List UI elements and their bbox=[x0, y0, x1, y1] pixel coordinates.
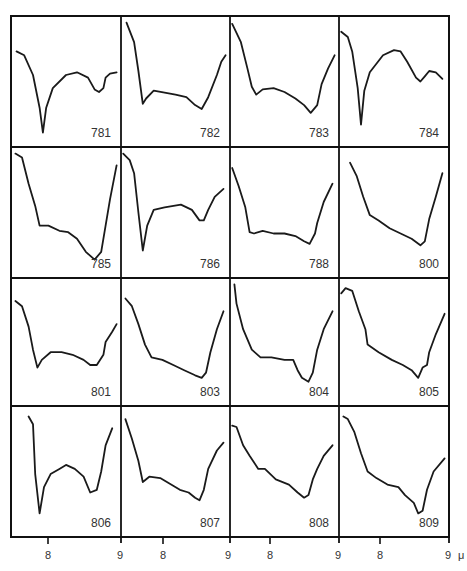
spectrum-panel-807: 807 bbox=[125, 419, 223, 530]
sample-number-label: 806 bbox=[91, 516, 111, 530]
x-axis-ticks: 89898989μ bbox=[45, 537, 464, 561]
spectrum-panel-809: 809 bbox=[343, 417, 444, 531]
spectrum-panel-808: 808 bbox=[232, 426, 332, 530]
sample-number-label: 804 bbox=[309, 385, 329, 399]
spectrum-panel-803: 803 bbox=[125, 299, 223, 400]
x-tick-label: 9 bbox=[335, 549, 341, 561]
spectrum-line bbox=[341, 288, 444, 378]
sample-number-label: 805 bbox=[419, 385, 439, 399]
x-axis-unit-label: μ bbox=[458, 549, 464, 561]
spectrum-panel-805: 805 bbox=[341, 288, 444, 399]
spectrum-line bbox=[232, 168, 332, 244]
spectrum-line bbox=[125, 419, 223, 500]
spectra-grid-figure: 7817827837847857867888008018038048058068… bbox=[0, 0, 467, 571]
sample-number-label: 809 bbox=[419, 516, 439, 530]
spectrum-line bbox=[125, 299, 223, 378]
spectrum-panel-783: 783 bbox=[232, 24, 334, 140]
x-tick-label: 9 bbox=[225, 549, 231, 561]
x-tick-label: 9 bbox=[117, 549, 123, 561]
sample-number-label: 800 bbox=[419, 257, 439, 271]
spectrum-line bbox=[15, 301, 116, 368]
sample-number-label: 801 bbox=[91, 385, 111, 399]
spectrum-panel-806: 806 bbox=[29, 417, 113, 531]
x-tick-label: 8 bbox=[267, 549, 273, 561]
sample-number-label: 782 bbox=[200, 126, 220, 140]
x-tick-label: 8 bbox=[160, 549, 166, 561]
sample-number-label: 786 bbox=[200, 257, 220, 271]
x-tick-label: 8 bbox=[377, 549, 383, 561]
grid-frame bbox=[11, 16, 449, 543]
spectrum-panel-788: 788 bbox=[232, 168, 332, 271]
spectrum-panel-801: 801 bbox=[15, 301, 116, 399]
sample-number-label: 803 bbox=[200, 385, 220, 399]
spectrum-panel-804: 804 bbox=[234, 284, 332, 399]
spectrum-line bbox=[350, 163, 442, 246]
spectrum-line bbox=[234, 284, 332, 381]
sample-number-label: 785 bbox=[91, 257, 111, 271]
spectrum-panel-781: 781 bbox=[17, 51, 117, 140]
sample-number-label: 783 bbox=[309, 126, 329, 140]
spectrum-line bbox=[29, 417, 113, 514]
sample-number-label: 807 bbox=[200, 516, 220, 530]
sample-number-label: 808 bbox=[309, 516, 329, 530]
spectrum-line bbox=[127, 23, 226, 109]
spectrum-panel-786: 786 bbox=[123, 154, 223, 271]
sample-number-label: 781 bbox=[91, 126, 111, 140]
spectrum-line bbox=[341, 32, 442, 125]
spectrum-line bbox=[17, 51, 117, 132]
sample-number-label: 788 bbox=[309, 257, 329, 271]
spectrum-line bbox=[232, 24, 334, 113]
spectrum-line bbox=[343, 417, 444, 514]
x-tick-label: 8 bbox=[45, 549, 51, 561]
spectrum-panel-785: 785 bbox=[15, 154, 116, 271]
spectrum-line bbox=[232, 426, 332, 498]
x-tick-label: 9 bbox=[445, 549, 451, 561]
spectrum-panel-800: 800 bbox=[350, 163, 442, 271]
sample-number-label: 784 bbox=[419, 126, 439, 140]
spectrum-panel-784: 784 bbox=[341, 32, 442, 140]
spectrum-line bbox=[123, 154, 223, 251]
spectrum-panel-782: 782 bbox=[127, 23, 226, 140]
spectrum-line bbox=[15, 154, 116, 260]
